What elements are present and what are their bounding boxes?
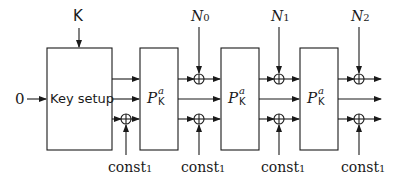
- permutation-label-3: PaK: [307, 91, 317, 106]
- nonce-label-2: N2: [351, 9, 370, 23]
- const-label-1: const1: [181, 160, 225, 174]
- sponge-diagram: K 0 Key setup PaK PaK PaK N0 N1 N2 const…: [0, 0, 397, 187]
- nonce-label-1: N1: [271, 9, 290, 23]
- const-label-0: const1: [108, 160, 152, 174]
- permutation-label-1: PaK: [147, 91, 157, 106]
- const-label-2: const1: [261, 160, 305, 174]
- nonce-label-0: N0: [191, 9, 210, 23]
- key-setup-label: Key setup: [50, 92, 114, 105]
- const-label-3: const1: [341, 160, 385, 174]
- key-label: K: [73, 9, 83, 24]
- permutation-label-2: PaK: [228, 91, 238, 106]
- zero-input-label: 0: [15, 92, 25, 107]
